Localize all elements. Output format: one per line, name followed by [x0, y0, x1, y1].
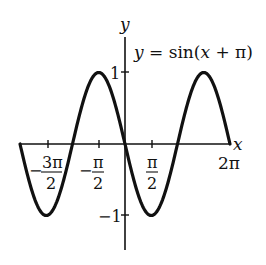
svg-text:2: 2 [46, 174, 56, 193]
svg-text:π: π [147, 153, 158, 172]
y-tick-label-1: 1 [110, 64, 120, 83]
x-tick-label-pi-2: π 2 [146, 153, 158, 193]
x-tick-label-neg-3pi-2: − 3π 2 [29, 153, 63, 193]
x-tick-label-2pi: 2π [218, 153, 240, 173]
svg-text:−: − [79, 161, 92, 180]
svg-text:2: 2 [147, 174, 157, 193]
x-axis-label: x [233, 134, 243, 154]
svg-text:−: − [29, 161, 42, 180]
svg-text:2: 2 [93, 174, 103, 193]
y-tick-label-neg1: −1 [98, 207, 122, 226]
svg-text:3π: 3π [42, 153, 63, 172]
sine-graph: y x y = sin(x + π) 1 −1 − 3π 2 − π 2 π 2… [0, 0, 266, 265]
svg-text:π: π [93, 153, 104, 172]
x-tick-label-neg-pi-2: − π 2 [79, 153, 104, 193]
equation-label: y = sin(x + π) [133, 42, 253, 62]
y-axis-label: y [119, 14, 130, 34]
